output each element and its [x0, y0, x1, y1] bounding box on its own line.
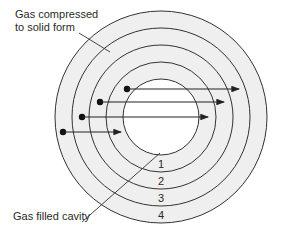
ring-label-4: 4 [155, 209, 167, 221]
label-gas-compressed-line1: Gas compressed [15, 8, 98, 20]
concentric-rings-figure [0, 0, 282, 241]
ring-label-1: 1 [155, 158, 167, 170]
label-gas-filled-cavity: Gas filled cavity [13, 210, 90, 222]
ring-label-2: 2 [155, 175, 167, 187]
compressed-gas-diagram: Gas compressed to solid form Gas filled … [0, 0, 282, 241]
label-gas-compressed-line2: to solid form [15, 21, 75, 33]
ring-label-3: 3 [155, 192, 167, 204]
